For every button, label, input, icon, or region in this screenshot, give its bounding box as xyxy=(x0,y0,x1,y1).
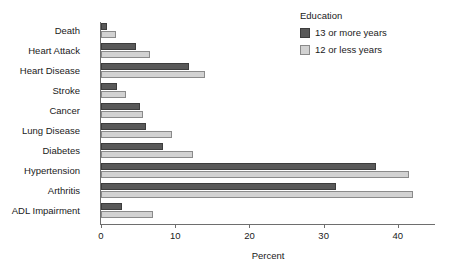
bar-13-or-more-years xyxy=(101,43,136,50)
x-axis-tick-label: 0 xyxy=(81,230,121,241)
bar-13-or-more-years xyxy=(101,23,107,30)
bar-12-or-less-years xyxy=(101,131,172,138)
bar-group: Heart Disease xyxy=(101,62,435,82)
bar-13-or-more-years xyxy=(101,183,336,190)
category-label: Death xyxy=(0,26,80,36)
bar-group: Stroke xyxy=(101,82,435,102)
legend-label-1: 12 or less years xyxy=(315,44,382,55)
x-axis-tick xyxy=(324,224,325,228)
x-axis-line xyxy=(100,224,435,225)
legend-item-1: 12 or less years xyxy=(300,44,387,55)
bar-12-or-less-years xyxy=(101,211,153,218)
category-label: Arthritis xyxy=(0,186,80,196)
bar-group: ADL Impairment xyxy=(101,202,435,222)
bar-12-or-less-years xyxy=(101,171,409,178)
bar-chart-figure: DeathHeart AttackHeart DiseaseStrokeCanc… xyxy=(0,0,449,271)
bar-13-or-more-years xyxy=(101,143,163,150)
x-axis-tick-label: 30 xyxy=(304,230,344,241)
x-axis-tick xyxy=(175,224,176,228)
x-axis-tick xyxy=(101,224,102,228)
bar-13-or-more-years xyxy=(101,103,140,110)
category-label: Stroke xyxy=(0,86,80,96)
category-label: Lung Disease xyxy=(0,126,80,136)
bar-group: Diabetes xyxy=(101,142,435,162)
bar-13-or-more-years xyxy=(101,83,117,90)
category-label: Hypertension xyxy=(0,166,80,176)
x-axis-tick xyxy=(398,224,399,228)
x-axis-tick-label: 20 xyxy=(229,230,269,241)
bar-12-or-less-years xyxy=(101,111,143,118)
category-label: Diabetes xyxy=(0,146,80,156)
bar-group: Cancer xyxy=(101,102,435,122)
bar-12-or-less-years xyxy=(101,71,205,78)
legend-swatch-dark-icon xyxy=(300,28,310,38)
bar-12-or-less-years xyxy=(101,31,116,38)
bar-group: Lung Disease xyxy=(101,122,435,142)
x-axis-title: Percent xyxy=(101,250,435,261)
legend-label-0: 13 or more years xyxy=(315,27,387,38)
bar-13-or-more-years xyxy=(101,63,189,70)
category-label: Heart Attack xyxy=(0,46,80,56)
bar-group: Arthritis xyxy=(101,182,435,202)
legend-title: Education xyxy=(300,10,387,21)
legend: Education 13 or more years 12 or less ye… xyxy=(300,10,387,61)
x-axis-tick-label: 10 xyxy=(155,230,195,241)
bar-13-or-more-years xyxy=(101,203,122,210)
bar-12-or-less-years xyxy=(101,51,150,58)
bar-13-or-more-years xyxy=(101,123,146,130)
bar-12-or-less-years xyxy=(101,151,193,158)
category-label: ADL Impairment xyxy=(0,206,80,216)
category-label: Heart Disease xyxy=(0,66,80,76)
bar-13-or-more-years xyxy=(101,163,376,170)
bar-group: Hypertension xyxy=(101,162,435,182)
category-label: Cancer xyxy=(0,106,80,116)
bar-12-or-less-years xyxy=(101,191,413,198)
legend-swatch-light-icon xyxy=(300,45,310,55)
bar-12-or-less-years xyxy=(101,91,126,98)
x-axis-tick-label: 40 xyxy=(378,230,418,241)
legend-item-0: 13 or more years xyxy=(300,27,387,38)
x-axis-tick xyxy=(249,224,250,228)
